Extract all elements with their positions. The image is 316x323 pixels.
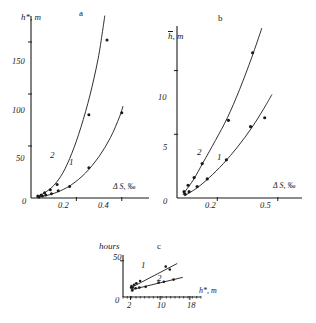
panel-b-ytick-10: 10 <box>158 92 167 102</box>
panel-a-ytick-150: 150 <box>12 56 25 66</box>
panel-b-curve-label-2: 2 <box>197 147 202 157</box>
panel-a-y-axis-title: h*, m <box>21 12 41 22</box>
panel-c-x-axis-title: h*, m <box>199 286 217 295</box>
panel-c-xtick-18: 18 <box>187 300 196 310</box>
panel-a-curve-label-2: 2 <box>50 150 55 160</box>
panel-a-label: a <box>79 8 83 18</box>
panel-b-xtick-0.5: 0.5 <box>260 200 271 210</box>
panel-c-y-axis-title: hours <box>99 241 120 251</box>
panel-a-curve-label-1: 1 <box>69 157 74 167</box>
panel-c-curve-label-1: 1 <box>141 260 146 270</box>
panel-b: h, m b 10 5 0 0.2 0.5 Δ S, ‰ 2 1 <box>155 0 316 215</box>
panel-c-xtick-10: 10 <box>157 300 166 310</box>
panel-a-ytick-0: 0 <box>22 196 26 206</box>
panel-c-xtick-2: 2 <box>127 300 131 310</box>
panel-a: h*, m a 150 100 50 0 0.2 0.4 Δ S, ‰ 2 1 <box>0 0 160 215</box>
panel-a-ytick-100: 100 <box>12 105 25 115</box>
panel-a-x-axis-title: Δ S, ‰ <box>113 182 136 191</box>
panel-c-ytick-0: 0 <box>115 295 119 305</box>
panel-b-ytick-0: 0 <box>163 196 167 206</box>
panel-a-xtick-0.4: 0.4 <box>98 200 109 210</box>
panel-a-ytick-50: 50 <box>16 153 25 163</box>
panel-b-label: b <box>218 13 223 23</box>
panel-b-ytick-5: 5 <box>163 142 167 152</box>
panel-b-xtick-0.2: 0.2 <box>205 200 216 210</box>
panel-a-xtick-0.2: 0.2 <box>58 200 69 210</box>
panel-b-x-axis-title: Δ S, ‰ <box>273 181 296 190</box>
panel-c-ytick-50: 50 <box>113 252 122 262</box>
panel-c-curve-label-2: 2 <box>157 273 162 283</box>
panel-b-y-axis-title: h, m <box>168 31 184 41</box>
panel-c-label: c <box>157 241 161 251</box>
figure-container: h*, m a 150 100 50 0 0.2 0.4 Δ S, ‰ 2 1 … <box>0 0 316 323</box>
panel-b-curve-label-1: 1 <box>217 152 222 162</box>
panel-c: hours c 50 0 2 10 18 h*, m 1 2 <box>95 240 220 318</box>
